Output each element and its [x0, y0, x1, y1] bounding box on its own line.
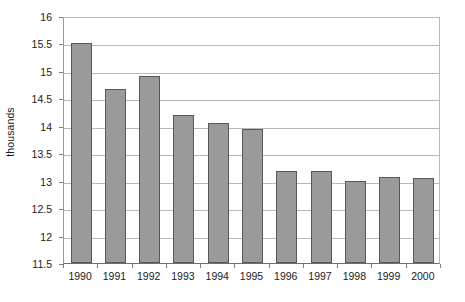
x-axis-tick-mark	[63, 264, 64, 268]
gridline	[64, 73, 439, 74]
x-axis-tick-label: 2000	[411, 270, 434, 282]
x-axis-tick-label: 1994	[206, 270, 229, 282]
x-axis-tick-label: 1995	[240, 270, 263, 282]
bar-chart: thousands 1615.51514.51413.51312.51211.5…	[0, 0, 465, 302]
bar	[379, 177, 400, 263]
x-axis-tick-mark	[97, 264, 98, 268]
y-axis-tick-label: 15	[18, 67, 56, 77]
x-axis-tick-mark	[337, 264, 338, 268]
y-axis-tick-label: 12.5	[18, 204, 56, 214]
x-axis-tick-label: 1996	[274, 270, 297, 282]
x-axis-tick-mark	[440, 264, 441, 268]
gridline	[64, 45, 439, 46]
x-axis-tick-label: 1998	[343, 270, 366, 282]
y-axis-title-label: thousands	[4, 107, 16, 156]
y-axis-tick-label: 16	[18, 12, 56, 22]
x-axis-tick-label: 1999	[377, 270, 400, 282]
y-axis-tick-label: 11.5	[18, 259, 56, 269]
y-axis-tick-label: 12	[18, 232, 56, 242]
bar	[105, 89, 126, 263]
y-axis-tick-label: 13	[18, 177, 56, 187]
x-axis-tick-mark	[166, 264, 167, 268]
y-axis-tick-label: 14	[18, 122, 56, 132]
x-axis-tick-mark	[200, 264, 201, 268]
x-axis-tick-mark	[406, 264, 407, 268]
plot-area	[63, 17, 440, 264]
x-axis-tick-mark	[132, 264, 133, 268]
x-axis-tick-mark	[234, 264, 235, 268]
x-axis-tick-mark	[371, 264, 372, 268]
bar	[276, 171, 297, 263]
x-axis-tick-label: 1992	[137, 270, 160, 282]
bar	[71, 43, 92, 263]
x-axis-tick-label: 1993	[171, 270, 194, 282]
x-axis-tick-mark	[303, 264, 304, 268]
x-axis-tick-mark	[269, 264, 270, 268]
bar	[139, 76, 160, 263]
y-axis-title: thousands	[0, 0, 20, 264]
x-axis-tick-label: 1991	[103, 270, 126, 282]
y-axis-tick-labels: 1615.51514.51413.51312.51211.5	[18, 0, 56, 302]
bar	[413, 178, 434, 263]
bar	[208, 123, 229, 263]
x-axis-tick-marks	[63, 264, 440, 269]
y-axis-tick-label: 15.5	[18, 39, 56, 49]
x-axis-tick-labels: 1990199119921993199419951996199719981999…	[63, 270, 440, 286]
bar	[242, 129, 263, 263]
bar	[311, 171, 332, 263]
x-axis-tick-label: 1990	[68, 270, 91, 282]
x-axis-tick-label: 1997	[308, 270, 331, 282]
bar	[345, 181, 366, 263]
y-axis-tick-label: 14.5	[18, 94, 56, 104]
bar	[173, 115, 194, 263]
y-axis-tick-label: 13.5	[18, 149, 56, 159]
